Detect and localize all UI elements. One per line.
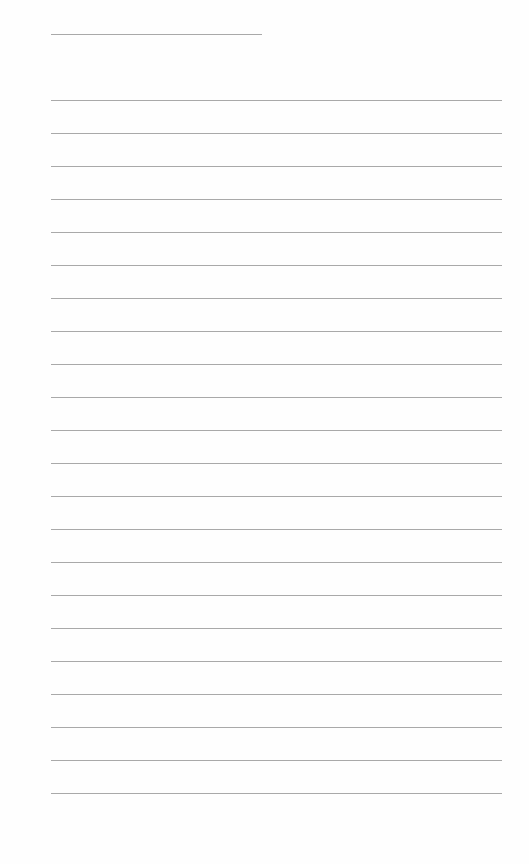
writing-line [51,100,502,101]
writing-line [51,265,502,266]
writing-line [51,562,502,563]
writing-line [51,628,502,629]
writing-line [51,463,502,464]
writing-line [51,430,502,431]
writing-line [51,661,502,662]
lined-paper-page [0,0,529,864]
writing-line [51,496,502,497]
writing-line [51,232,502,233]
writing-line [51,595,502,596]
writing-line [51,397,502,398]
writing-line [51,364,502,365]
writing-line [51,331,502,332]
writing-line [51,199,502,200]
writing-line [51,529,502,530]
writing-line [51,133,502,134]
header-name-line [51,34,262,35]
writing-line [51,166,502,167]
writing-line [51,694,502,695]
writing-line [51,793,502,794]
writing-line [51,760,502,761]
writing-line [51,298,502,299]
writing-line [51,727,502,728]
